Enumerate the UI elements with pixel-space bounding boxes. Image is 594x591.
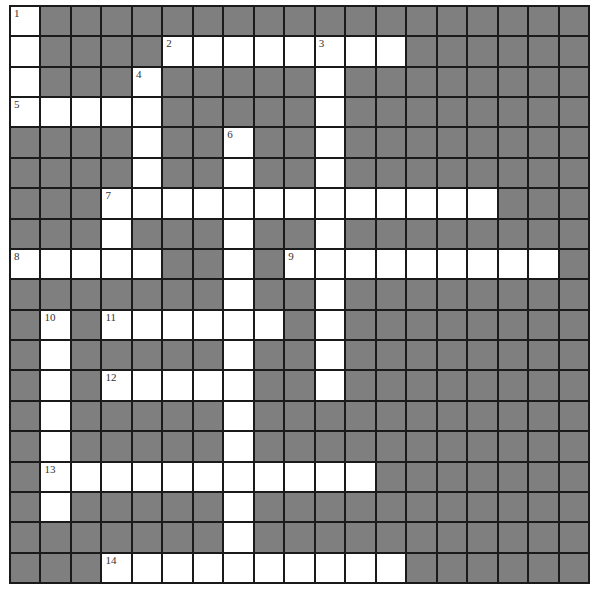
crossword-cell-open[interactable] — [41, 493, 69, 521]
crossword-cell-open[interactable] — [133, 128, 161, 156]
crossword-cell-open[interactable] — [11, 37, 39, 65]
crossword-cell-open[interactable] — [468, 189, 496, 217]
crossword-cell-open[interactable] — [163, 554, 191, 582]
crossword-cell-open[interactable] — [163, 189, 191, 217]
crossword-cell-open[interactable] — [285, 463, 313, 491]
crossword-cell-open[interactable] — [316, 68, 344, 96]
crossword-cell-open[interactable] — [194, 554, 222, 582]
crossword-cell-open[interactable] — [224, 250, 252, 278]
crossword-cell-open[interactable] — [346, 463, 374, 491]
crossword-cell-open[interactable] — [133, 98, 161, 126]
crossword-cell-open[interactable] — [377, 250, 405, 278]
crossword-cell-open[interactable] — [346, 189, 374, 217]
crossword-cell-open[interactable] — [41, 341, 69, 369]
crossword-cell-open[interactable] — [133, 371, 161, 399]
crossword-cell-open[interactable] — [72, 463, 100, 491]
crossword-cell-open[interactable] — [194, 311, 222, 339]
crossword-cell-open[interactable] — [316, 371, 344, 399]
crossword-cell-open[interactable] — [133, 554, 161, 582]
crossword-cell-open[interactable]: 14 — [102, 554, 130, 582]
crossword-cell-open[interactable]: 11 — [102, 311, 130, 339]
crossword-cell-open[interactable] — [133, 159, 161, 187]
crossword-cell-open[interactable] — [316, 98, 344, 126]
crossword-cell-open[interactable]: 13 — [41, 463, 69, 491]
crossword-cell-open[interactable] — [102, 463, 130, 491]
crossword-cell-open[interactable] — [194, 37, 222, 65]
crossword-cell-open[interactable] — [224, 189, 252, 217]
crossword-cell-open[interactable] — [316, 220, 344, 248]
crossword-cell-open[interactable] — [224, 402, 252, 430]
crossword-cell-open[interactable] — [102, 220, 130, 248]
crossword-cell-open[interactable]: 2 — [163, 37, 191, 65]
crossword-cell-open[interactable]: 3 — [316, 37, 344, 65]
crossword-cell-open[interactable] — [224, 341, 252, 369]
crossword-cell-open[interactable] — [346, 554, 374, 582]
crossword-cell-open[interactable] — [41, 250, 69, 278]
crossword-cell-open[interactable]: 1 — [11, 7, 39, 35]
crossword-cell-open[interactable]: 6 — [224, 128, 252, 156]
crossword-cell-open[interactable] — [224, 37, 252, 65]
crossword-cell-open[interactable]: 5 — [11, 98, 39, 126]
crossword-cell-open[interactable] — [316, 463, 344, 491]
crossword-cell-open[interactable] — [133, 463, 161, 491]
crossword-cell-open[interactable] — [41, 98, 69, 126]
crossword-cell-open[interactable] — [316, 189, 344, 217]
crossword-cell-open[interactable] — [224, 554, 252, 582]
crossword-cell-open[interactable] — [316, 341, 344, 369]
crossword-cell-open[interactable] — [255, 189, 283, 217]
crossword-cell-open[interactable]: 9 — [285, 250, 313, 278]
crossword-cell-open[interactable]: 4 — [133, 68, 161, 96]
crossword-cell-open[interactable] — [133, 250, 161, 278]
crossword-cell-open[interactable] — [346, 250, 374, 278]
crossword-cell-open[interactable] — [102, 98, 130, 126]
crossword-cell-open[interactable] — [163, 371, 191, 399]
crossword-cell-open[interactable] — [468, 250, 496, 278]
crossword-cell-open[interactable] — [407, 189, 435, 217]
crossword-cell-open[interactable] — [316, 280, 344, 308]
crossword-cell-open[interactable] — [255, 311, 283, 339]
crossword-cell-open[interactable] — [316, 311, 344, 339]
crossword-cell-open[interactable] — [316, 554, 344, 582]
crossword-cell-open[interactable] — [72, 250, 100, 278]
crossword-cell-open[interactable] — [377, 554, 405, 582]
crossword-cell-open[interactable] — [316, 128, 344, 156]
crossword-cell-open[interactable]: 10 — [41, 311, 69, 339]
crossword-cell-open[interactable] — [224, 159, 252, 187]
crossword-cell-open[interactable] — [407, 250, 435, 278]
crossword-cell-open[interactable] — [316, 159, 344, 187]
crossword-cell-open[interactable] — [499, 250, 527, 278]
crossword-cell-open[interactable] — [316, 250, 344, 278]
crossword-cell-open[interactable] — [346, 37, 374, 65]
crossword-cell-open[interactable] — [224, 220, 252, 248]
crossword-cell-open[interactable] — [377, 189, 405, 217]
crossword-cell-open[interactable] — [163, 311, 191, 339]
crossword-cell-open[interactable] — [438, 250, 466, 278]
crossword-cell-open[interactable] — [438, 189, 466, 217]
crossword-cell-open[interactable] — [194, 463, 222, 491]
crossword-cell-open[interactable] — [224, 493, 252, 521]
crossword-cell-open[interactable] — [377, 37, 405, 65]
crossword-cell-open[interactable] — [41, 371, 69, 399]
crossword-cell-open[interactable] — [285, 189, 313, 217]
crossword-cell-open[interactable] — [133, 189, 161, 217]
crossword-cell-open[interactable] — [255, 37, 283, 65]
crossword-cell-open[interactable] — [194, 371, 222, 399]
crossword-cell-open[interactable] — [255, 554, 283, 582]
crossword-cell-open[interactable] — [163, 463, 191, 491]
crossword-cell-open[interactable] — [255, 463, 283, 491]
crossword-cell-open[interactable]: 8 — [11, 250, 39, 278]
crossword-cell-open[interactable] — [41, 402, 69, 430]
crossword-cell-open[interactable] — [224, 311, 252, 339]
crossword-cell-open[interactable] — [11, 68, 39, 96]
crossword-cell-open[interactable] — [224, 523, 252, 551]
crossword-cell-open[interactable] — [224, 463, 252, 491]
crossword-cell-open[interactable] — [224, 432, 252, 460]
crossword-cell-open[interactable] — [41, 432, 69, 460]
crossword-cell-open[interactable] — [529, 250, 557, 278]
crossword-cell-open[interactable] — [133, 311, 161, 339]
crossword-cell-open[interactable] — [72, 98, 100, 126]
crossword-cell-open[interactable]: 7 — [102, 189, 130, 217]
crossword-cell-open[interactable] — [194, 189, 222, 217]
crossword-cell-open[interactable]: 12 — [102, 371, 130, 399]
crossword-cell-open[interactable] — [224, 371, 252, 399]
